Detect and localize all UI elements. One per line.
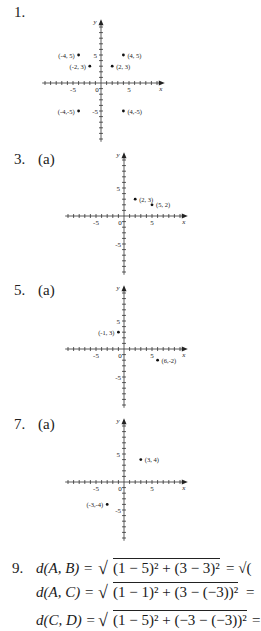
svg-text:5: 5	[117, 451, 121, 459]
sqrt-icon: √	[98, 610, 108, 631]
sqrt-icon: √	[98, 582, 108, 603]
equation-lhs: d(A, B) =	[36, 560, 93, 577]
equation-lhs: d(C, D) =	[36, 612, 96, 629]
data-point	[106, 503, 109, 506]
svg-text:0: 0	[118, 485, 122, 493]
svg-text:-5: -5	[115, 507, 121, 515]
equation-tail: = √(	[226, 560, 251, 577]
svg-text:5: 5	[150, 485, 154, 493]
equation-radicand: (1 − 5)² + (−3 − (−3))²	[113, 610, 247, 629]
data-point	[139, 458, 142, 461]
equation-tail: =	[252, 612, 260, 629]
svg-text:y: y	[115, 417, 120, 425]
problem-number-9: 9.	[12, 560, 23, 577]
equation-radicand: (1 − 5)² + (3 − 3)²	[113, 558, 220, 577]
equation-lhs: d(A, C) =	[36, 584, 94, 601]
sqrt-icon: √	[98, 558, 108, 579]
svg-text:x: x	[181, 484, 186, 492]
svg-text:-5: -5	[93, 485, 99, 493]
equation-tail: =	[246, 584, 254, 601]
svg-text:(-3,-4): (-3,-4)	[86, 501, 103, 509]
y-arrow-icon	[122, 418, 127, 424]
svg-text:(3, 4): (3, 4)	[145, 456, 159, 464]
equation-radicand: (1 − 1)² + (3 − (−3))²	[113, 582, 238, 601]
